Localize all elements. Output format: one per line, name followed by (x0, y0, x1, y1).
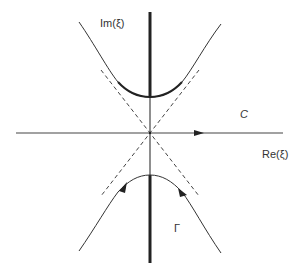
contour-diagram (0, 0, 299, 274)
real-axis-label: Re(ξ) (262, 148, 288, 160)
contour-c-label: C (240, 108, 248, 120)
imag-axis-label: Im(ξ) (100, 17, 124, 29)
arrow-right-icon (194, 130, 204, 136)
origin-point (149, 132, 151, 134)
arrow-up-right-icon (119, 182, 127, 193)
contour-gamma-label: Γ (174, 222, 180, 234)
arrow-down-right-icon (178, 188, 187, 197)
